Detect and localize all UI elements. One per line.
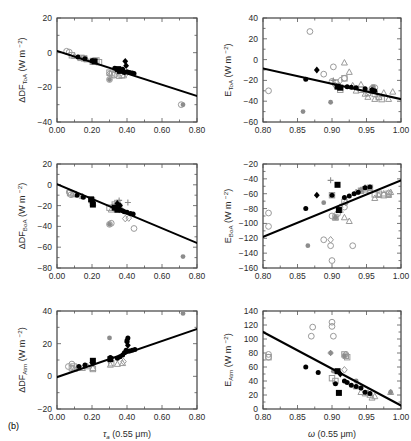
svg-text:ΔDFAtm (W m −2): ΔDFAtm (W m −2) — [16, 327, 29, 393]
svg-text:ΔDFBoA (W m −2): ΔDFBoA (W m −2) — [16, 183, 29, 249]
plot-area-e-atm: 0.800.850.900.951.00140120100806040200EA… — [222, 306, 410, 439]
svg-text:100: 100 — [244, 334, 258, 344]
svg-text:ω (0.55 μm): ω (0.55 μm) — [308, 429, 356, 439]
svg-text:0.85: 0.85 — [289, 125, 306, 135]
panel-e-boa: 0.800.850.900.951.00−20−40−60−80−100−120… — [205, 148, 411, 300]
svg-text:0.80: 0.80 — [189, 271, 206, 281]
svg-text:τa (0.55 μm): τa (0.55 μm) — [103, 429, 151, 440]
svg-text:0.40: 0.40 — [119, 412, 136, 422]
series-filled-square — [335, 182, 342, 213]
series-filled-diamond — [314, 67, 320, 74]
svg-text:−40: −40 — [244, 174, 259, 184]
series-plus — [328, 177, 334, 183]
plot-area-e-toa: 0.800.850.900.951.0040200−20−40−60EToA (… — [222, 13, 410, 135]
series-open-circle — [266, 29, 378, 94]
svg-text:−20: −20 — [244, 159, 259, 169]
svg-text:0.40: 0.40 — [119, 271, 136, 281]
panel-e-atm: 0.800.850.900.951.00140120100806040200EA… — [205, 297, 411, 441]
panel-df-toa: 0.000.200.400.600.80200−20−40ΔDFToA (W m… — [0, 0, 206, 150]
svg-text:40: 40 — [249, 13, 259, 23]
plot-area-df-boa: 0.000.200.400.600.80200−20−40−60−80ΔDFBo… — [16, 159, 206, 281]
svg-text:0.90: 0.90 — [324, 412, 341, 422]
svg-text:−140: −140 — [239, 248, 258, 258]
svg-text:0.95: 0.95 — [358, 125, 375, 135]
figure-part-label: (b) — [8, 415, 19, 433]
svg-text:−120: −120 — [239, 233, 258, 243]
panel-df-atm: 0.000.200.400.600.8040200−20ΔDFAtm (W m … — [0, 297, 206, 441]
svg-text:EAtm (W m −2): EAtm (W m −2) — [222, 333, 235, 387]
svg-text:−100: −100 — [239, 218, 258, 228]
svg-text:0.85: 0.85 — [289, 271, 306, 281]
svg-text:40: 40 — [249, 376, 259, 386]
figure-panel-b: 0.000.200.400.600.80200−20−40ΔDFToA (W m… — [0, 0, 411, 441]
svg-text:−60: −60 — [38, 242, 53, 252]
svg-text:EToA (W m −2): EToA (W m −2) — [222, 43, 235, 96]
svg-text:20: 20 — [43, 159, 53, 169]
svg-text:−20: −20 — [244, 75, 259, 85]
svg-text:−80: −80 — [38, 263, 53, 273]
plot-area-df-toa: 0.000.200.400.600.80200−20−40ΔDFToA (W m… — [16, 13, 206, 135]
svg-text:20: 20 — [249, 390, 259, 400]
svg-text:−60: −60 — [244, 117, 259, 127]
svg-text:0.85: 0.85 — [289, 412, 306, 422]
series-gray-circle — [107, 222, 185, 259]
svg-text:1.00: 1.00 — [393, 412, 410, 422]
svg-text:−20: −20 — [38, 201, 53, 211]
svg-text:−60: −60 — [244, 189, 259, 199]
svg-text:0.60: 0.60 — [154, 125, 171, 135]
svg-text:0.20: 0.20 — [84, 125, 101, 135]
panel-df-boa-svg: 0.000.200.400.600.80200−20−40−60−80ΔDFBo… — [0, 148, 206, 300]
panel-df-toa-svg: 0.000.200.400.600.80200−20−40ΔDFToA (W m… — [0, 0, 206, 150]
svg-text:1.00: 1.00 — [393, 125, 410, 135]
svg-text:−40: −40 — [244, 96, 259, 106]
svg-text:EBoA (W m −2): EBoA (W m −2) — [222, 189, 235, 243]
series-gray-circle — [107, 77, 185, 107]
panel-e-atm-svg: 0.800.850.900.951.00140120100806040200EA… — [205, 297, 411, 441]
svg-text:60: 60 — [249, 362, 259, 372]
panel-e-toa-svg: 0.800.850.900.951.0040200−20−40−60EToA (… — [205, 0, 411, 150]
svg-text:0: 0 — [253, 55, 258, 65]
svg-text:0.80: 0.80 — [189, 125, 206, 135]
plot-area-df-atm: 0.000.200.400.600.8040200−20ΔDFAtm (W m … — [16, 306, 206, 440]
svg-text:−20: −20 — [38, 404, 53, 414]
series-open-circle — [266, 204, 356, 263]
svg-text:80: 80 — [249, 348, 259, 358]
svg-text:0.60: 0.60 — [154, 271, 171, 281]
plot-area-e-boa: 0.800.850.900.951.00−20−40−60−80−100−120… — [222, 159, 410, 281]
svg-text:−160: −160 — [239, 263, 258, 273]
svg-text:0.20: 0.20 — [84, 412, 101, 422]
svg-text:20: 20 — [43, 13, 53, 23]
svg-text:40: 40 — [43, 306, 53, 316]
svg-text:0.40: 0.40 — [119, 125, 136, 135]
panel-e-boa-svg: 0.800.850.900.951.00−20−40−60−80−100−120… — [205, 148, 411, 300]
svg-text:0.95: 0.95 — [358, 412, 375, 422]
svg-text:0.80: 0.80 — [189, 412, 206, 422]
svg-text:20: 20 — [43, 339, 53, 349]
svg-text:140: 140 — [244, 306, 258, 316]
svg-text:−40: −40 — [38, 117, 53, 127]
svg-text:0.20: 0.20 — [84, 271, 101, 281]
svg-text:0.90: 0.90 — [324, 125, 341, 135]
svg-text:0.60: 0.60 — [154, 412, 171, 422]
svg-text:ΔDFToA (W m −2): ΔDFToA (W m −2) — [16, 37, 29, 102]
svg-text:−40: −40 — [38, 221, 53, 231]
svg-text:20: 20 — [249, 34, 259, 44]
svg-text:0: 0 — [47, 48, 52, 58]
panel-df-boa: 0.000.200.400.600.80200−20−40−60−80ΔDFBo… — [0, 148, 206, 300]
panel-e-toa: 0.800.850.900.951.0040200−20−40−60EToA (… — [205, 0, 411, 150]
svg-text:1.00: 1.00 — [393, 271, 410, 281]
svg-text:0: 0 — [47, 371, 52, 381]
series-filled-diamond — [314, 192, 320, 199]
svg-text:0.90: 0.90 — [324, 271, 341, 281]
svg-text:−20: −20 — [38, 82, 53, 92]
svg-text:0: 0 — [253, 404, 258, 414]
svg-text:0: 0 — [47, 180, 52, 190]
svg-text:0.95: 0.95 — [358, 271, 375, 281]
panel-df-atm-svg: 0.000.200.400.600.8040200−20ΔDFAtm (W m … — [0, 297, 206, 441]
svg-text:−80: −80 — [244, 204, 259, 214]
svg-text:120: 120 — [244, 320, 258, 330]
